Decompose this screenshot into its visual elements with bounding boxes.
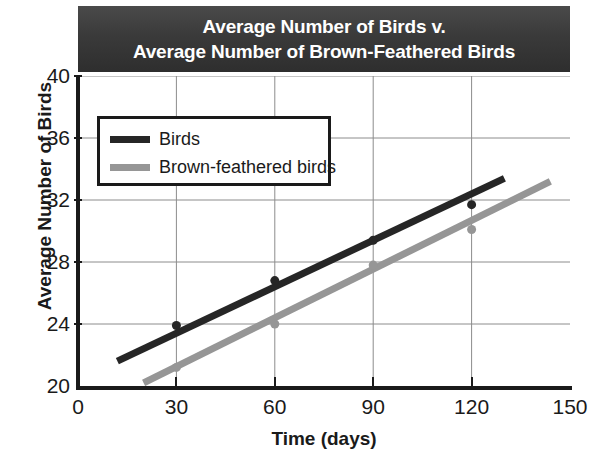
x-axis-title: Time (days) (78, 428, 570, 450)
x-axis-line (76, 386, 572, 390)
trendline-series-1 (144, 181, 551, 383)
y-axis-tick-mark (74, 199, 82, 201)
data-point-series-1 (467, 225, 476, 234)
y-axis-tick-mark (74, 323, 82, 325)
x-axis-tick-label: 90 (343, 396, 403, 417)
data-point-series-0 (172, 321, 181, 330)
data-point-series-0 (369, 236, 378, 245)
x-axis-tick-mark (372, 377, 374, 386)
chart-legend: Birds Brown-feathered birds (97, 116, 331, 186)
legend-swatch-brown-feathered-birds (110, 164, 150, 171)
chart-title-line-1: Average Number of Birds v. (203, 14, 446, 39)
data-point-series-0 (270, 276, 279, 285)
x-axis-tick-label: 120 (442, 396, 502, 417)
legend-swatch-birds (110, 136, 150, 143)
data-point-series-1 (270, 320, 279, 329)
chart-title-line-2: Average Number of Brown-Feathered Birds (133, 39, 515, 64)
x-axis-tick-label: 60 (245, 396, 305, 417)
y-axis-tick-mark (74, 137, 82, 139)
legend-item-brown-feathered-birds: Brown-feathered birds (110, 153, 328, 181)
legend-item-birds: Birds (110, 125, 328, 153)
x-axis-tick-mark (175, 377, 177, 386)
x-axis-tick-label: 150 (540, 396, 592, 417)
y-axis-tick-mark (74, 261, 82, 263)
legend-label-brown-feathered-birds: Brown-feathered birds (159, 158, 336, 176)
y-axis-line (76, 76, 80, 390)
chart-title-banner: Average Number of Birds v. Average Numbe… (78, 6, 570, 72)
data-point-series-1 (369, 261, 378, 270)
x-axis-tick-label: 0 (48, 396, 108, 417)
x-axis-tick-mark (471, 377, 473, 386)
x-axis-tick-mark (274, 377, 276, 386)
legend-label-birds: Birds (159, 130, 200, 148)
y-axis-title: Average Number of Birds (34, 46, 56, 346)
x-axis-tick-label: 30 (146, 396, 206, 417)
data-point-series-1 (172, 363, 181, 372)
trendline-series-0 (117, 178, 504, 361)
y-axis-tick-mark (74, 75, 82, 77)
y-axis-tick-label: 20 (8, 375, 70, 396)
data-point-series-0 (467, 200, 476, 209)
